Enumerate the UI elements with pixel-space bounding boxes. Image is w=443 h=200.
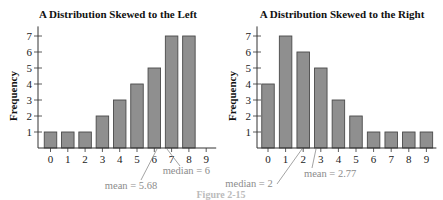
bars: [262, 36, 433, 148]
bar: [96, 116, 109, 148]
bar: [315, 68, 328, 148]
bar: [131, 84, 144, 148]
y-tick-label: 3: [246, 94, 252, 106]
y-tick-label: 6: [246, 46, 252, 58]
bar: [297, 52, 310, 148]
bar: [44, 132, 57, 148]
x-tick-label: 4: [117, 153, 123, 165]
bar: [403, 132, 416, 148]
x-tick-label: 6: [371, 153, 377, 165]
x-tick-label: 3: [318, 153, 324, 165]
annotation-label: mean = 2.77: [304, 168, 356, 179]
x-tick-label: 1: [65, 153, 71, 165]
x-tick-label: 9: [203, 153, 209, 165]
bar: [148, 68, 161, 148]
x-tick-label: 9: [424, 153, 430, 165]
x-tick-label: 4: [336, 153, 342, 165]
bar: [113, 100, 126, 148]
y-tick-label: 4: [27, 78, 33, 90]
y-tick-label: 1: [246, 126, 252, 138]
x-tick-label: 8: [186, 153, 192, 165]
y-tick-label: 3: [27, 94, 33, 106]
bar: [62, 132, 75, 148]
bar: [79, 132, 92, 148]
bar: [367, 132, 380, 148]
bar: [420, 132, 433, 148]
bar: [262, 84, 275, 148]
bar: [332, 100, 345, 148]
x-tick-label: 8: [406, 153, 412, 165]
y-axis-label: Frequency: [226, 71, 238, 121]
y-tick-label: 5: [27, 62, 33, 74]
y-tick-label: 1: [27, 126, 33, 138]
annotation-label: median = 2: [225, 178, 272, 189]
x-tick-label: 7: [388, 153, 394, 165]
chart-title: A Distribution Skewed to the Left: [39, 8, 197, 20]
bars: [44, 36, 195, 148]
chart-title: A Distribution Skewed to the Right: [260, 8, 425, 20]
y-tick-label: 7: [246, 30, 252, 42]
y-tick-label: 2: [27, 110, 33, 122]
bar: [279, 36, 292, 148]
y-tick-label: 7: [27, 30, 33, 42]
bar: [183, 36, 196, 148]
y-tick-label: 6: [27, 46, 33, 58]
annotation-label: median = 6: [163, 165, 210, 176]
left-skew-chart: A Distribution Skewed to the Left Freque…: [7, 8, 216, 191]
y-tick-label: 2: [246, 110, 252, 122]
x-tick-label: 5: [353, 153, 359, 165]
x-tick-label: 2: [82, 153, 88, 165]
y-axis-label: Frequency: [7, 71, 19, 121]
y-tick-label: 5: [246, 62, 252, 74]
skew-charts: A Distribution Skewed to the Left Freque…: [0, 0, 443, 200]
right-skew-chart: A Distribution Skewed to the Right Frequ…: [225, 8, 436, 189]
x-tick-label: 1: [283, 153, 289, 165]
x-tick-label: 2: [300, 153, 306, 165]
x-tick-label: 3: [100, 153, 106, 165]
bar: [350, 116, 363, 148]
x-tick-label: 0: [48, 153, 54, 165]
x-tick-label: 5: [134, 153, 140, 165]
x-tick-label: 6: [152, 153, 158, 165]
x-tick-label: 0: [265, 153, 271, 165]
bar: [385, 132, 398, 148]
annotation-label: mean = 5.68: [105, 180, 157, 191]
y-tick-label: 4: [246, 78, 252, 90]
figure-caption: Figure 2-15: [197, 189, 246, 200]
bar: [165, 36, 178, 148]
